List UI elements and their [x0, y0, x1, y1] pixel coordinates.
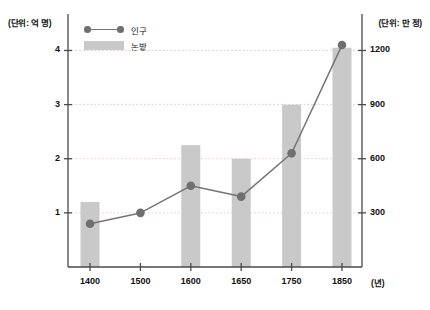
right-axis-tick-900: 900 — [370, 99, 404, 109]
x-axis-tick-1850: 1850 — [324, 276, 360, 286]
chart-plot-area — [0, 0, 430, 310]
axis-lines — [68, 14, 362, 267]
left-axis-tick-3: 3 — [30, 99, 60, 109]
right-axis-tick-1200: 1200 — [370, 44, 404, 54]
x-axis-tick-1750: 1750 — [274, 276, 310, 286]
left-axis-tick-1: 1 — [30, 207, 60, 217]
x-axis-tick-1650: 1650 — [223, 276, 259, 286]
right-axis-tick-300: 300 — [370, 207, 404, 217]
line-series-points — [86, 41, 347, 228]
bar-series — [81, 48, 352, 267]
line-series — [90, 45, 342, 224]
axis-ticks — [64, 50, 366, 271]
gridlines — [68, 50, 362, 212]
x-axis-tick-1500: 1500 — [122, 276, 158, 286]
x-axis-tick-1400: 1400 — [72, 276, 108, 286]
x-axis-name-label: (년) — [371, 276, 385, 288]
right-axis-tick-600: 600 — [370, 153, 404, 163]
left-axis-tick-2: 2 — [30, 153, 60, 163]
left-axis-tick-4: 4 — [30, 44, 60, 54]
x-axis-tick-1600: 1600 — [173, 276, 209, 286]
